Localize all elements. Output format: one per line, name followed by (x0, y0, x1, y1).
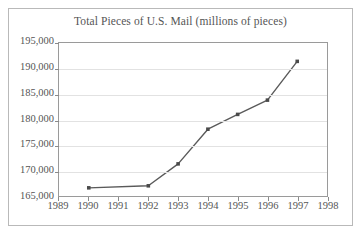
data-point-marker (206, 127, 210, 131)
series-line (89, 61, 297, 187)
plot-area (58, 42, 328, 197)
y-axis-tick-label: 185,000 (2, 87, 54, 98)
data-point-marker (147, 184, 151, 188)
y-axis-tick (55, 43, 59, 44)
gridline (59, 95, 327, 96)
data-point-marker (87, 186, 91, 190)
data-point-marker (295, 60, 299, 64)
y-axis-tick-label: 195,000 (2, 35, 54, 46)
y-axis-tick (55, 95, 59, 96)
y-axis-tick-label: 170,000 (2, 164, 54, 175)
chart-title: Total Pieces of U.S. Mail (millions of p… (0, 15, 361, 27)
gridline (59, 69, 327, 70)
gridline (59, 121, 327, 122)
y-axis-tick (55, 146, 59, 147)
x-axis-tick-label: 1998 (308, 200, 348, 211)
chart-page: Total Pieces of U.S. Mail (millions of p… (0, 0, 361, 242)
y-axis-labels: 165,000170,000175,000180,000185,000190,0… (0, 42, 54, 197)
y-axis-tick-label: 175,000 (2, 138, 54, 149)
y-axis-tick (55, 172, 59, 173)
gridline (59, 172, 327, 173)
data-point-marker (236, 113, 240, 117)
y-axis-tick-label: 190,000 (2, 61, 54, 72)
y-axis-tick-label: 180,000 (2, 113, 54, 124)
data-point-marker (266, 98, 270, 102)
data-point-marker (176, 162, 180, 166)
y-axis-tick (55, 69, 59, 70)
y-axis-tick (55, 121, 59, 122)
x-axis-labels: 1989199019911992199319941995199619971998 (58, 200, 328, 216)
gridline (59, 146, 327, 147)
series-markers (87, 60, 299, 190)
